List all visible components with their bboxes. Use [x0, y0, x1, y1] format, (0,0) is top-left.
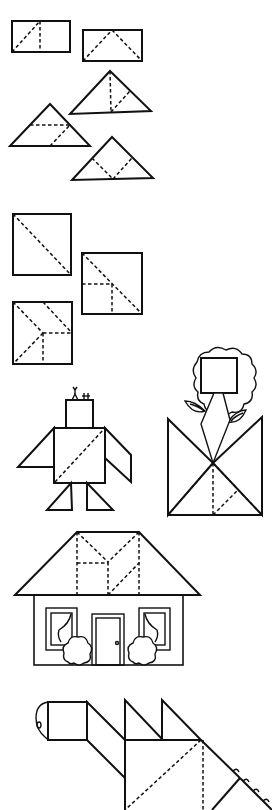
dinosaur-spikes-icon [233, 769, 269, 802]
square-diagonal [13, 214, 71, 275]
left-bush-icon [63, 637, 92, 665]
triangle-split-a [70, 71, 151, 114]
bird-figure [18, 387, 131, 510]
dinosaur [36, 700, 272, 810]
bow-icon [82, 393, 90, 400]
door [92, 614, 124, 665]
square-three-parts [82, 253, 142, 314]
antenna-icon [72, 387, 78, 400]
triangle-split-b [10, 104, 90, 146]
square-five-parts [13, 302, 72, 364]
house [15, 532, 200, 665]
right-bush-icon [128, 637, 157, 665]
rectangle-two-triangles [12, 21, 70, 52]
tangram-worksheet [0, 0, 272, 810]
triangle-split-c [72, 137, 153, 180]
flower-in-pot [168, 347, 262, 515]
rectangle-three-triangles [83, 30, 142, 61]
